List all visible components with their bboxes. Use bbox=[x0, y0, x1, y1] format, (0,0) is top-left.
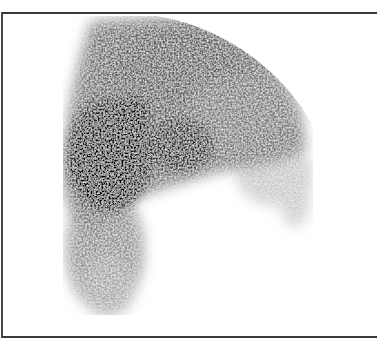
scintigraphy-image bbox=[0, 0, 377, 344]
dark-hotspot-center bbox=[148, 119, 212, 171]
scan-canvas bbox=[0, 0, 377, 344]
